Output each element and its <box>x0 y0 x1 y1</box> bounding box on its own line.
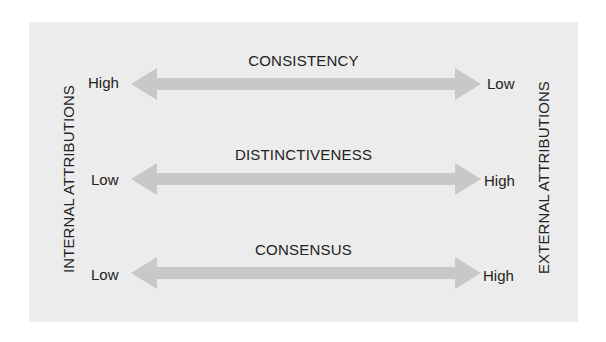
consensus-left-value: Low <box>91 266 119 283</box>
consistency-row: CONSISTENCY High Low <box>29 52 578 92</box>
consistency-left-value: High <box>88 74 119 91</box>
consensus-right-value: High <box>483 267 514 284</box>
consistency-right-value: Low <box>487 75 515 92</box>
double-arrow-icon <box>131 256 481 290</box>
distinctiveness-row: DISTINCTIVENESS Low High <box>29 146 578 186</box>
distinctiveness-right-value: High <box>484 172 515 189</box>
consensus-row: CONSENSUS Low High <box>29 241 578 281</box>
double-arrow-icon <box>131 162 481 196</box>
attribution-diagram: INTERNAL ATTRIBUTIONS EXTERNAL ATTRIBUTI… <box>29 22 578 322</box>
double-arrow-icon <box>131 67 481 101</box>
distinctiveness-title: DISTINCTIVENESS <box>29 146 578 163</box>
distinctiveness-left-value: Low <box>91 171 119 188</box>
